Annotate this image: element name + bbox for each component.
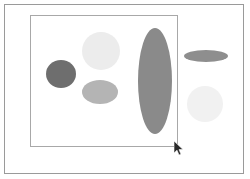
figure-canvas bbox=[0, 0, 250, 179]
ellipse-dark-circle-left bbox=[46, 60, 76, 88]
ellipse-mid-ellipse-lower bbox=[82, 80, 118, 104]
ellipse-pale-circle-upper bbox=[82, 32, 120, 70]
ellipse-pale-circle-right bbox=[187, 86, 223, 122]
ellipse-tall-ellipse-center bbox=[138, 28, 172, 134]
ellipse-flat-ellipse-right bbox=[184, 50, 228, 62]
